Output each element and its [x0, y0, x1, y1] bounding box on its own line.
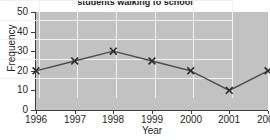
x-axis-tick-label: 2000: [173, 114, 209, 125]
y-axis-tick: [31, 32, 35, 33]
x-axis-tick-label: 2002: [250, 114, 270, 125]
y-axis-tick: [31, 51, 35, 52]
line-chart: students walking to school 01020304050 1…: [0, 0, 270, 140]
x-axis-tick-label: 1999: [134, 114, 170, 125]
x-axis-tick-label: 1997: [57, 114, 93, 125]
data-point-marker: [226, 87, 233, 94]
series-markers: [33, 48, 270, 94]
y-axis-tick: [31, 12, 35, 13]
data-point-marker: [265, 67, 270, 74]
y-axis-tick: [31, 90, 35, 91]
data-series-layer: [36, 12, 268, 110]
y-axis-tick-label: 10: [2, 85, 28, 95]
x-axis-title: Year: [36, 126, 268, 136]
y-axis-tick: [31, 110, 35, 111]
series-line: [36, 51, 268, 90]
chart-title: students walking to school: [0, 0, 270, 7]
y-axis-title: Frequency: [7, 10, 17, 86]
x-axis-tick-label: 2001: [211, 114, 247, 125]
x-axis-tick-label: 1998: [95, 114, 131, 125]
x-axis-tick-label: 1996: [18, 114, 54, 125]
